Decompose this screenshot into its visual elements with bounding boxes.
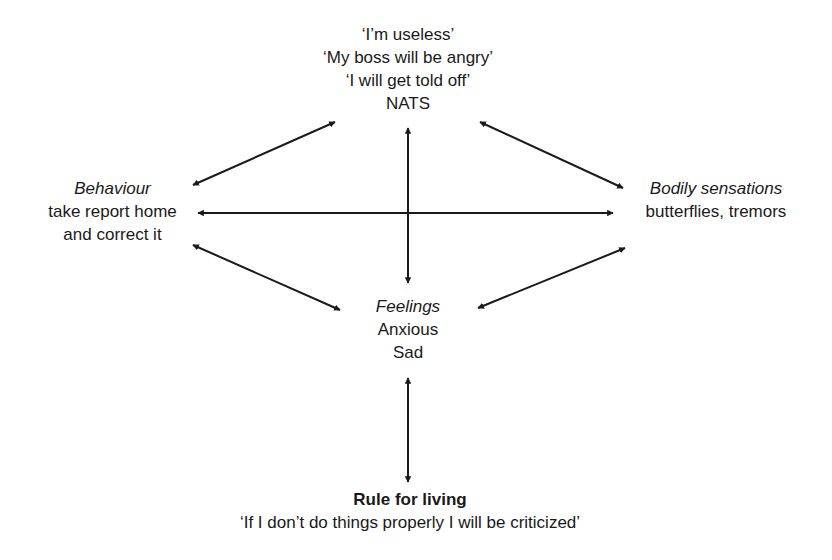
nats-thought-3: ‘I will get told off’ bbox=[308, 69, 508, 92]
nats-thought-2: ‘My boss will be angry’ bbox=[308, 46, 508, 69]
arrow-behaviour-feelings bbox=[193, 245, 340, 310]
bodily-sensations-node: Bodily sensations butterflies, tremors bbox=[600, 177, 832, 223]
behaviour-heading: Behaviour bbox=[20, 177, 205, 200]
bodily-line-1: butterflies, tremors bbox=[600, 200, 832, 223]
behaviour-line-1: take report home bbox=[20, 200, 205, 223]
arrow-nats-behaviour bbox=[193, 122, 335, 185]
feelings-line-1: Anxious bbox=[350, 318, 466, 341]
rule-for-living-node: Rule for living ‘If I don’t do things pr… bbox=[200, 488, 620, 534]
nats-label: NATS bbox=[308, 92, 508, 115]
nats-thought-1: ‘I’m useless’ bbox=[308, 23, 508, 46]
bodily-heading: Bodily sensations bbox=[600, 177, 832, 200]
rule-line-1: ‘If I don’t do things properly I will be… bbox=[200, 511, 620, 534]
rule-heading: Rule for living bbox=[200, 488, 620, 511]
feelings-heading: Feelings bbox=[350, 295, 466, 318]
feelings-node: Feelings Anxious Sad bbox=[350, 295, 466, 364]
nats-node: ‘I’m useless’ ‘My boss will be angry’ ‘I… bbox=[308, 23, 508, 115]
feelings-line-2: Sad bbox=[350, 341, 466, 364]
arrow-bodily-feelings bbox=[478, 248, 625, 308]
behaviour-node: Behaviour take report home and correct i… bbox=[20, 177, 205, 246]
behaviour-line-2: and correct it bbox=[20, 223, 205, 246]
